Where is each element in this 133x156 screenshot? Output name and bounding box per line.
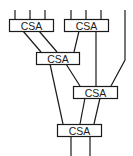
csa1-to-csa3-wires xyxy=(23,31,57,52)
csa-node-2-label: CSA xyxy=(76,20,98,32)
csa-node-4-label: CSA xyxy=(85,87,107,99)
csa5-outputs xyxy=(71,136,90,156)
csa-node-1-label: CSA xyxy=(21,20,43,32)
csa-node-5-label: CSA xyxy=(69,125,91,137)
csa-node-3: CSA xyxy=(37,53,80,65)
csa-node-5: CSA xyxy=(58,125,102,137)
extra-input-wire xyxy=(111,10,125,86)
csa-node-4: CSA xyxy=(74,87,118,99)
csa-node-3-label: CSA xyxy=(47,53,69,65)
csa1-inputs xyxy=(15,10,45,19)
csa-node-2: CSA xyxy=(65,20,109,32)
csa-node-1: CSA xyxy=(10,20,54,32)
csa4-output-wires xyxy=(80,98,100,124)
csa-tree-diagram: CSA CSA CSA CSA CSA xyxy=(0,0,133,156)
csa2-inputs xyxy=(71,10,101,19)
